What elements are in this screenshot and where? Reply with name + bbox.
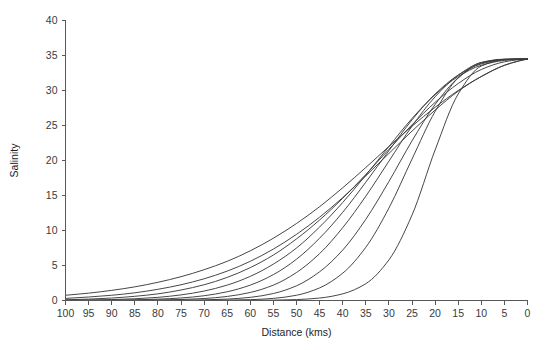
x-tick-label: 55 xyxy=(268,307,280,319)
salinity-distance-chart: 0510152025303540 10095908580757065605550… xyxy=(0,0,552,350)
y-tick-label: 30 xyxy=(46,84,58,96)
y-ticks-group: 0510152025303540 xyxy=(46,14,66,306)
x-tick-label: 85 xyxy=(129,307,141,319)
x-tick-label: 5 xyxy=(501,307,507,319)
x-tick-label: 0 xyxy=(525,307,531,319)
x-ticks-group: 1009590858075706560555045403530252015105… xyxy=(57,301,531,319)
x-tick-label: 95 xyxy=(83,307,95,319)
curves-group xyxy=(66,59,528,301)
y-tick-label: 10 xyxy=(46,224,58,236)
salinity-curve xyxy=(66,59,528,300)
x-tick-label: 15 xyxy=(452,307,464,319)
x-tick-label: 10 xyxy=(475,307,487,319)
x-tick-label: 90 xyxy=(106,307,118,319)
y-axis-title: Salinity xyxy=(8,143,20,178)
salinity-curve xyxy=(66,59,528,300)
x-tick-label: 75 xyxy=(175,307,187,319)
salinity-curve xyxy=(66,59,528,301)
x-tick-label: 30 xyxy=(383,307,395,319)
x-tick-label: 25 xyxy=(406,307,418,319)
x-tick-label: 20 xyxy=(429,307,441,319)
x-tick-label: 80 xyxy=(152,307,164,319)
x-tick-label: 45 xyxy=(314,307,326,319)
salinity-curve xyxy=(66,59,528,301)
x-tick-label: 35 xyxy=(360,307,372,319)
x-axis-title: Distance (kms) xyxy=(261,326,331,338)
x-tick-label: 60 xyxy=(244,307,256,319)
salinity-curve xyxy=(66,59,528,301)
x-tick-label: 100 xyxy=(57,307,75,319)
y-tick-label: 20 xyxy=(46,154,58,166)
y-tick-label: 40 xyxy=(46,14,58,26)
salinity-curve xyxy=(66,59,528,301)
x-tick-label: 50 xyxy=(291,307,303,319)
axes-group xyxy=(66,21,528,301)
y-tick-label: 25 xyxy=(46,119,58,131)
x-tick-label: 65 xyxy=(221,307,233,319)
y-tick-label: 0 xyxy=(52,294,58,306)
x-tick-label: 40 xyxy=(337,307,349,319)
salinity-curve xyxy=(66,59,528,300)
y-tick-label: 15 xyxy=(46,189,58,201)
plot-svg: 0510152025303540 10095908580757065605550… xyxy=(0,0,552,350)
x-tick-label: 70 xyxy=(198,307,210,319)
y-tick-label: 5 xyxy=(52,259,58,271)
y-tick-label: 35 xyxy=(46,49,58,61)
